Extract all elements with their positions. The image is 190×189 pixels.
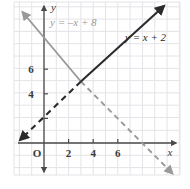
x-tick-label-4: 4	[90, 147, 96, 159]
equation-label-line1: y = x + 2	[124, 31, 167, 43]
equation-label-line2: y = –x + 8	[49, 16, 97, 28]
origin-label: O	[33, 147, 42, 159]
y-tick-label-6: 6	[28, 63, 34, 75]
x-tick-label-2: 2	[66, 147, 72, 159]
y-axis-label: y	[50, 1, 56, 13]
y-tick-label-4: 4	[28, 88, 34, 100]
coordinate-plane: 6 4 2 4 6 O x y y = –x + 8 y = x + 2	[0, 0, 190, 189]
x-tick-label-6: 6	[115, 147, 121, 159]
x-axis-label: x	[167, 146, 173, 158]
graph-figure: 6 4 2 4 6 O x y y = –x + 8 y = x + 2	[0, 0, 190, 189]
